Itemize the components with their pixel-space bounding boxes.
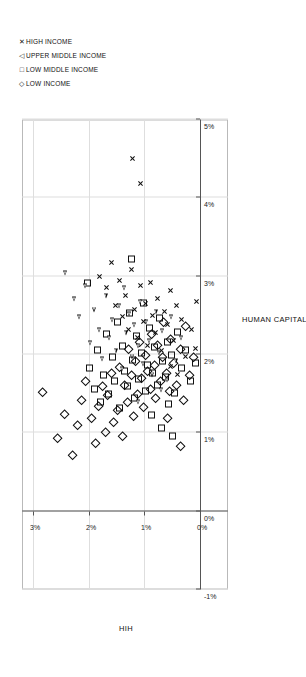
diamond-marker-icon: ◇ [18, 79, 26, 87]
legend-item-triangle: ◁UPPER MIDDLE INCOME [18, 51, 106, 59]
x-tick-label: 3% [204, 279, 214, 286]
x-tick-label: 2% [204, 357, 214, 364]
legend-item-diamond: ◇LOW INCOME [18, 79, 71, 87]
y-tick [33, 511, 34, 515]
x-tick [196, 588, 200, 589]
y-tick-label: 2% [86, 523, 96, 530]
figure: -1%0%1%2%3%4%5%0%1%2%3% HUMAN CAPITAL PE… [0, 0, 306, 677]
x-tick-label: 5% [204, 122, 214, 129]
gridline-horizontal [33, 119, 34, 589]
legend-item-square: □LOW MIDDLE INCOME [18, 65, 98, 72]
chart-canvas: -1%0%1%2%3%4%5%0%1%2%3% HUMAN CAPITAL PE… [0, 0, 306, 677]
y-axis-title: HIH [119, 623, 133, 632]
legend-label: HIGH INCOME [26, 37, 72, 44]
y-tick-label: 1% [141, 523, 151, 530]
legend-item-x: ✕HIGH INCOME [18, 37, 72, 45]
x-tick [196, 353, 200, 354]
legend-label: LOW MIDDLE INCOME [26, 65, 98, 72]
y-tick [144, 511, 145, 515]
legend: ◇LOW INCOME□LOW MIDDLE INCOME◁UPPER MIDD… [18, 7, 168, 79]
y-tick [200, 511, 201, 515]
x-tick-label: 4% [204, 200, 214, 207]
x-tick-label: 1% [204, 435, 214, 442]
gridline-horizontal [89, 119, 90, 589]
legend-label: UPPER MIDDLE INCOME [26, 51, 106, 58]
y-tick-label: 0% [197, 523, 207, 530]
y-tick [89, 511, 90, 515]
legend-label: LOW INCOME [26, 79, 71, 86]
x-axis-line [200, 119, 201, 589]
x-tick-label: 0% [204, 514, 214, 521]
x-marker-icon: ✕ [18, 37, 26, 45]
x-tick [196, 275, 200, 276]
square-marker-icon: □ [18, 65, 26, 72]
x-tick-label: -1% [204, 592, 216, 599]
x-tick [196, 196, 200, 197]
x-axis-title: HUMAN CAPITAL PER CAPITA [242, 314, 306, 323]
x-tick [196, 118, 200, 119]
y-tick-label: 3% [30, 523, 40, 530]
triangle-marker-icon: ◁ [18, 51, 26, 59]
x-tick [196, 431, 200, 432]
